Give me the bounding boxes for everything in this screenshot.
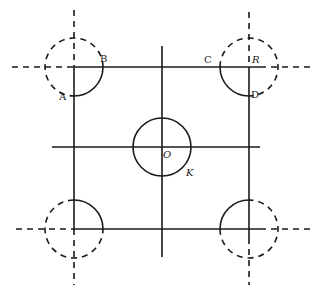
label-r: R bbox=[251, 54, 260, 65]
label-a: A bbox=[58, 91, 67, 102]
label-c: C bbox=[204, 54, 212, 65]
arc-top-right bbox=[220, 67, 249, 96]
point-labels: A B C R D O K bbox=[58, 53, 260, 178]
label-d: D bbox=[251, 89, 259, 100]
arc-top-left bbox=[74, 67, 103, 96]
label-b: B bbox=[100, 53, 107, 64]
arc-bottom-left bbox=[74, 200, 103, 229]
label-o: O bbox=[163, 149, 171, 160]
geometry-diagram: A B C R D O K bbox=[0, 0, 321, 296]
label-k: K bbox=[185, 167, 194, 178]
center-axes bbox=[52, 46, 260, 257]
arc-bottom-right bbox=[220, 200, 249, 229]
